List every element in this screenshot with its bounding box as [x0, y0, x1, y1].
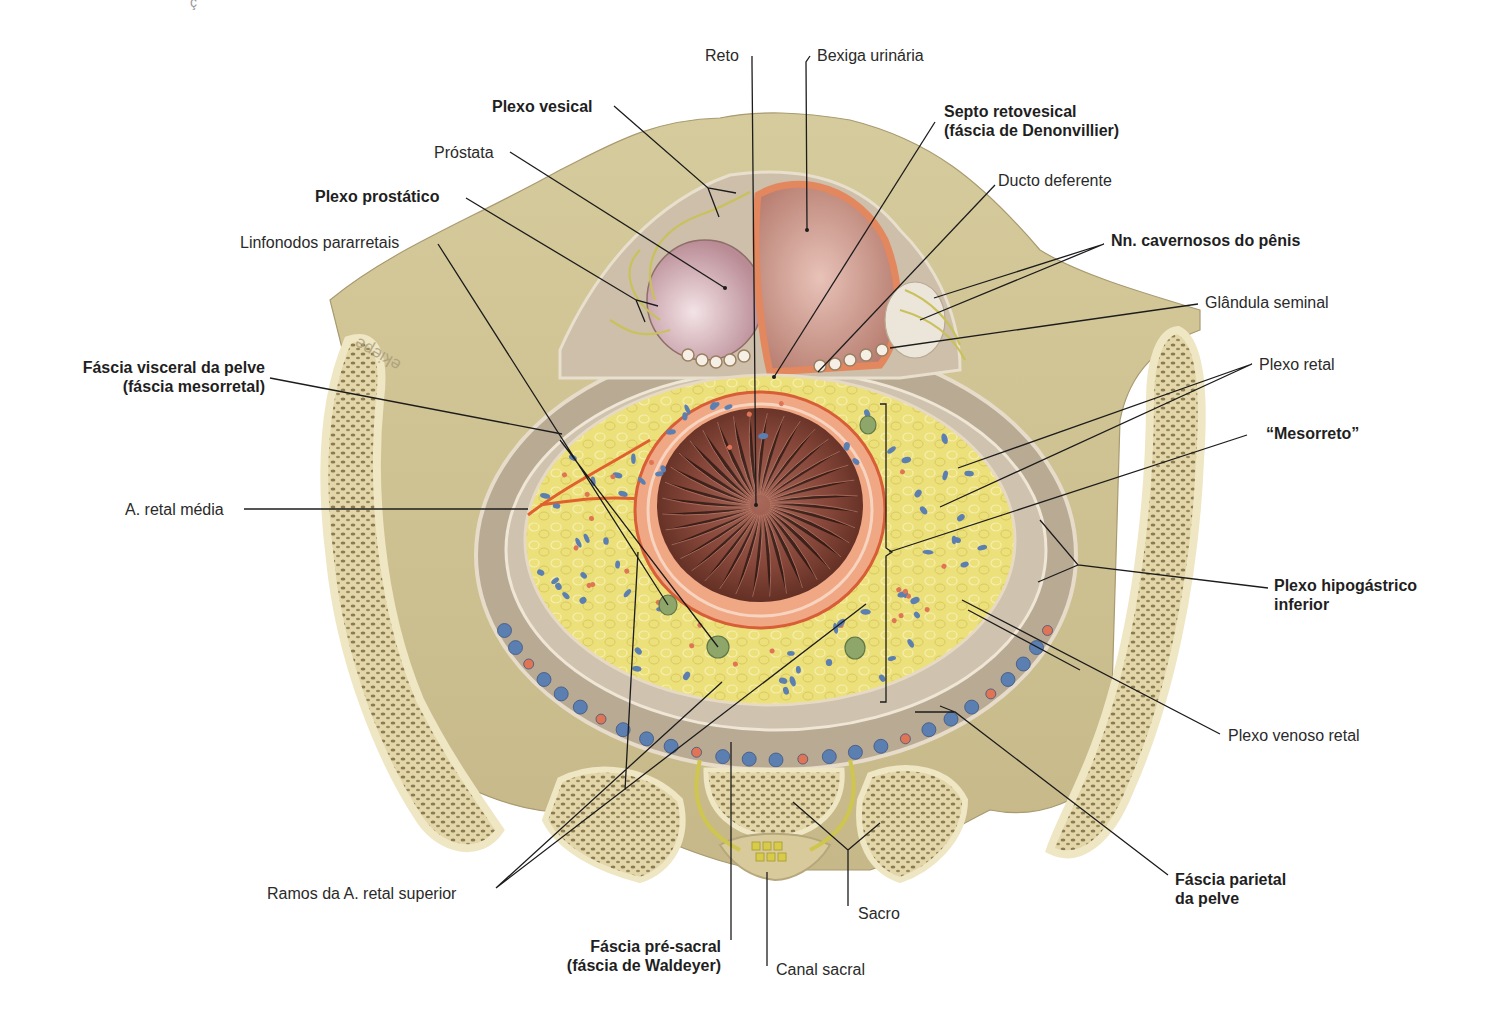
- label-reto: Reto: [705, 46, 739, 65]
- label-fascia-parietal: Fáscia parietal da pelve: [1175, 870, 1286, 908]
- label-plexo-hipogastrico-line1: Plexo hipogástrico: [1274, 576, 1417, 595]
- label-fascia-presacral: Fáscia pré-sacral (fáscia de Waldeyer): [540, 937, 721, 975]
- vein-section: [664, 739, 678, 753]
- vein-section: [848, 745, 862, 759]
- artery-section: [692, 747, 702, 757]
- label-fascia-parietal-line1: Fáscia parietal: [1175, 870, 1286, 889]
- artery-section: [798, 754, 808, 764]
- vein-section: [537, 673, 551, 687]
- vein-section: [1016, 657, 1030, 671]
- label-fascia-presacral-line2: (fáscia de Waldeyer): [540, 956, 721, 975]
- label-septo-retovesical: Septo retovesical (fáscia de Denonvillie…: [944, 102, 1119, 140]
- label-plexo-venoso-retal: Plexo venoso retal: [1228, 726, 1360, 745]
- vein-section: [944, 712, 958, 726]
- vein-section: [965, 700, 979, 714]
- label-a-retal-media: A. retal média: [125, 500, 224, 519]
- artery-section: [986, 689, 996, 699]
- label-fascia-visceral-line2: (fáscia mesorretal): [54, 377, 265, 396]
- label-canal-sacral: Canal sacral: [776, 960, 865, 979]
- vein-section: [822, 750, 836, 764]
- artery-section: [524, 659, 534, 669]
- label-nn-cavernosos: Nn. cavernosos do pênis: [1111, 231, 1300, 250]
- vein-section: [874, 739, 888, 753]
- artery-section: [596, 714, 606, 724]
- label-glandula-seminal: Glândula seminal: [1205, 293, 1329, 312]
- label-plexo-prostatico: Plexo prostático: [315, 187, 439, 206]
- sacrum-right-ala: [859, 768, 965, 880]
- vein-section: [922, 723, 936, 737]
- label-plexo-vesical: Plexo vesical: [492, 97, 593, 116]
- vein-section: [1030, 641, 1044, 655]
- label-fascia-parietal-line2: da pelve: [1175, 889, 1286, 908]
- label-septo-line2: (fáscia de Denonvillier): [944, 121, 1119, 140]
- label-sacro: Sacro: [858, 904, 900, 923]
- seminal-gland: [885, 282, 945, 358]
- label-linfonodos-pararretais: Linfonodos pararretais: [240, 233, 399, 252]
- label-septo-line1: Septo retovesical: [944, 102, 1119, 121]
- vein-section: [509, 641, 523, 655]
- vein-section: [742, 752, 756, 766]
- vein-section: [573, 700, 587, 714]
- vein-section: [1001, 673, 1015, 687]
- label-plexo-hipogastrico: Plexo hipogástrico inferior: [1274, 576, 1417, 614]
- label-prostata: Próstata: [434, 143, 494, 162]
- prostate: [647, 240, 763, 360]
- label-plexo-retal: Plexo retal: [1259, 355, 1335, 374]
- artery-section: [900, 734, 910, 744]
- vein-section: [787, 651, 795, 656]
- label-bexiga-urinaria: Bexiga urinária: [817, 46, 924, 65]
- vein-section: [716, 750, 730, 764]
- label-ducto-deferente: Ducto deferente: [998, 171, 1112, 190]
- vein-section: [498, 624, 512, 638]
- label-fascia-visceral-line1: Fáscia visceral da pelve: [54, 358, 265, 377]
- artery-section: [1043, 626, 1053, 636]
- vein-section: [554, 687, 568, 701]
- label-plexo-hipogastrico-line2: inferior: [1274, 595, 1417, 614]
- vein-section: [769, 753, 783, 767]
- label-fascia-visceral: Fáscia visceral da pelve (fáscia mesorre…: [54, 358, 265, 396]
- label-ramos-a-retal-superior: Ramos da A. retal superior: [267, 884, 456, 903]
- vein-section: [640, 732, 654, 746]
- label-mesorreto: “Mesorreto”: [1266, 424, 1359, 443]
- label-fascia-presacral-line1: Fáscia pré-sacral: [540, 937, 721, 956]
